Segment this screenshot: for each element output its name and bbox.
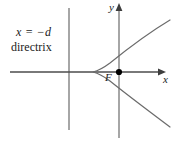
y-axis-arrowhead-icon [116, 3, 123, 11]
directrix-equation-label: x = −d [16, 26, 51, 38]
parabola-figure: x = −d directrix y x F [0, 0, 175, 145]
x-axis-label: x [163, 74, 168, 85]
directrix-word-label: directrix [11, 41, 52, 53]
y-axis-label: y [109, 2, 114, 13]
focus-label: F [105, 72, 112, 83]
figure-canvas [0, 0, 175, 145]
focus-point-marker [116, 69, 122, 75]
